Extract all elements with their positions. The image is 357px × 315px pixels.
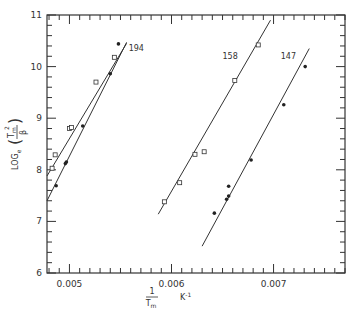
plot-border	[47, 15, 345, 273]
svg-text:Tm: Tm	[145, 299, 157, 309]
fit-line-194	[47, 43, 127, 176]
data-point-open-square	[94, 80, 98, 84]
data-point-open-square	[69, 125, 73, 129]
svg-text:LOGe: LOGe	[11, 149, 22, 170]
svg-text:K-1: K-1	[180, 291, 191, 302]
data-point-open-square	[178, 181, 182, 185]
axis-labels: 0.0050.0060.007678910111TmK-1LOGe(Tm2β)	[3, 10, 286, 309]
svg-text:): )	[5, 118, 24, 124]
data-point-open-square	[53, 153, 57, 157]
data-point-open-square	[233, 79, 237, 83]
data-point-filled-circle	[225, 197, 229, 201]
data-points	[50, 42, 307, 215]
y-tick-label: 9	[36, 113, 42, 123]
svg-text:2: 2	[3, 126, 10, 130]
series-label-158: 158	[223, 52, 238, 61]
arrhenius-chart: 0.0050.0060.007678910111TmK-1LOGe(Tm2β) …	[0, 0, 357, 315]
data-point-filled-circle	[249, 158, 253, 162]
data-point-open-square	[193, 152, 197, 156]
svg-text:(: (	[5, 139, 24, 145]
data-point-filled-circle	[65, 160, 69, 164]
fit-lines	[47, 20, 309, 246]
data-point-filled-circle	[227, 194, 231, 198]
fit-line-194	[47, 42, 127, 200]
x-tick-label: 0.006	[159, 279, 185, 289]
data-point-filled-circle	[108, 72, 112, 76]
y-tick-label: 8	[36, 165, 42, 175]
data-point-filled-circle	[81, 124, 85, 128]
data-point-open-square	[112, 55, 116, 59]
data-point-filled-circle	[227, 185, 231, 189]
data-point-filled-circle	[213, 211, 217, 215]
series-annotations: 194158147	[129, 44, 296, 61]
x-axis-label: 1TmK-1	[145, 287, 192, 309]
fit-line-147	[202, 49, 309, 247]
data-point-filled-circle	[303, 65, 307, 69]
data-point-filled-circle	[117, 42, 121, 46]
plot-frame	[47, 15, 345, 273]
data-point-open-square	[162, 200, 166, 204]
data-point-filled-circle	[282, 103, 286, 107]
data-point-open-square	[256, 43, 260, 47]
data-point-open-square	[50, 166, 54, 170]
y-tick-label: 7	[36, 216, 42, 226]
series-label-147: 147	[281, 52, 296, 61]
x-tick-label: 0.005	[57, 279, 83, 289]
y-tick-label: 10	[31, 62, 43, 72]
y-axis-label: LOGe(Tm2β)	[3, 118, 28, 170]
data-point-filled-circle	[54, 184, 58, 188]
y-tick-label: 11	[31, 10, 42, 20]
axis-ticks	[47, 15, 345, 273]
y-tick-label: 6	[36, 268, 42, 278]
svg-text:1: 1	[149, 287, 154, 296]
svg-text:β: β	[19, 130, 28, 135]
data-point-open-square	[202, 150, 206, 154]
series-label-194: 194	[129, 44, 144, 53]
x-tick-label: 0.007	[261, 279, 287, 289]
fit-line-158	[158, 20, 270, 214]
